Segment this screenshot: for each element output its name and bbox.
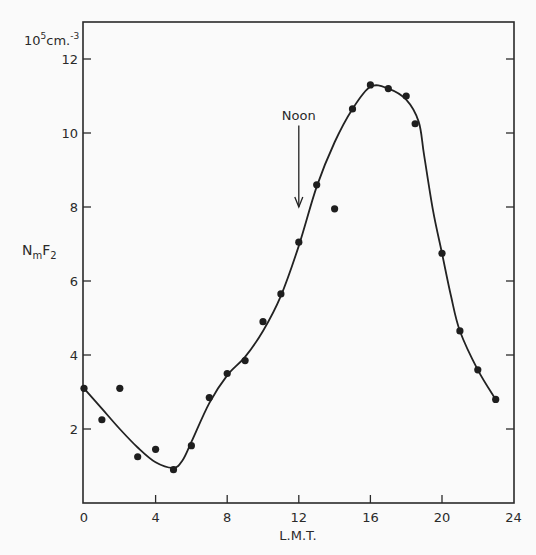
y-tick-label: 12 — [61, 52, 78, 67]
data-point — [98, 416, 105, 423]
data-point — [385, 85, 392, 92]
noon-annotation: Noon — [282, 108, 316, 207]
data-point — [367, 81, 374, 88]
x-tick-label: 12 — [291, 510, 308, 525]
y-tick-label: 4 — [70, 348, 78, 363]
x-axis-ticks: 04812162024 — [80, 495, 522, 525]
plot-border — [83, 22, 514, 503]
x-tick-label: 20 — [434, 510, 451, 525]
data-point — [188, 442, 195, 449]
y-tick-label: 10 — [61, 126, 78, 141]
y-tick-label: 8 — [70, 200, 78, 215]
plot-frame — [83, 22, 514, 503]
data-point — [206, 394, 213, 401]
data-point — [116, 385, 123, 392]
fitted-curve — [84, 85, 496, 468]
data-point — [224, 370, 231, 377]
data-point — [80, 385, 87, 392]
data-point — [474, 366, 481, 373]
y-unit-label: 105cm.-3 — [24, 31, 79, 48]
x-tick-label: 24 — [505, 510, 522, 525]
x-tick-label: 0 — [80, 510, 88, 525]
data-point — [403, 92, 410, 99]
x-tick-label: 4 — [151, 510, 159, 525]
y-tick-label: 2 — [70, 422, 78, 437]
data-point — [277, 290, 284, 297]
chart: 24681012 04812162024 Noon 105cm.-3 NmF2 … — [0, 0, 536, 555]
y-axis-label: NmF2 — [22, 242, 57, 261]
data-point — [242, 357, 249, 364]
noon-label: Noon — [282, 108, 316, 123]
data-point — [492, 396, 499, 403]
data-point — [313, 181, 320, 188]
data-point — [170, 466, 177, 473]
y-tick-label: 6 — [70, 274, 78, 289]
data-point — [152, 446, 159, 453]
data-points — [80, 81, 499, 473]
data-point — [349, 105, 356, 112]
data-point — [295, 239, 302, 246]
data-point — [331, 205, 338, 212]
x-tick-label: 8 — [223, 510, 231, 525]
data-point — [456, 327, 463, 334]
x-axis-label: L.M.T. — [279, 528, 316, 543]
data-point — [412, 120, 419, 127]
data-point — [438, 250, 445, 257]
data-point — [259, 318, 266, 325]
data-point — [134, 453, 141, 460]
x-tick-label: 16 — [362, 510, 379, 525]
